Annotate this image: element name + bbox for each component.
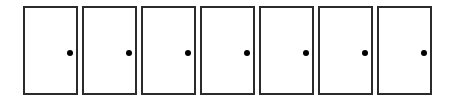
door-7[interactable]: Door 7 (377, 6, 432, 95)
door-knob-icon (421, 50, 427, 56)
door-3[interactable]: Door 3 (141, 6, 196, 95)
door-knob-icon (185, 50, 191, 56)
door-5[interactable]: Door 5 (259, 6, 314, 95)
door-label: Door 3 (143, 8, 144, 9)
door-6[interactable]: Door 6 (318, 6, 373, 95)
door-knob-icon (362, 50, 368, 56)
door-knob-icon (67, 50, 73, 56)
door-label: Door 7 (379, 8, 380, 9)
door-1[interactable]: Door 1 (23, 6, 78, 95)
door-label: Door 6 (320, 8, 321, 9)
door-knob-icon (303, 50, 309, 56)
door-knob-icon (244, 50, 250, 56)
door-label: Door 1 (25, 8, 26, 9)
doors-row: Door 1 Door 2 Door 3 Door 4 Door 5 Door … (23, 6, 432, 95)
door-2[interactable]: Door 2 (82, 6, 137, 95)
door-4[interactable]: Door 4 (200, 6, 255, 95)
door-knob-icon (126, 50, 132, 56)
door-label: Door 5 (261, 8, 262, 9)
door-label: Door 2 (84, 8, 85, 9)
door-label: Door 4 (202, 8, 203, 9)
